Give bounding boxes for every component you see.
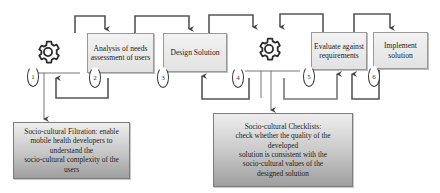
step-number-6: 6 [368,66,380,87]
note-text: Socio-cultural Checklists: check whether… [235,122,330,179]
step-label: Design Solution [170,48,219,57]
step-number-2: 2 [89,67,101,88]
step-label: Analysis of needs assessment of users [90,44,151,62]
note-socio-cultural-checklists: Socio-cultural Checklists: check whether… [213,113,353,187]
step-number-1: 1 [27,66,39,87]
step-number-3: 3 [157,67,169,88]
step-box-implement: Implement solution [373,32,428,69]
note-text: Socio-cultural Filtration: enable mobile… [24,127,119,174]
step-box-design: Design Solution [163,33,227,72]
note-socio-cultural-filtration: Socio-cultural Filtration: enable mobile… [13,122,130,179]
step-box-evaluate: Evaluate against requirements [311,32,367,70]
step-label: Implement solution [376,41,425,59]
step-label: Evaluate against requirements [314,42,364,60]
gear-icon [34,38,62,66]
step-number-5: 5 [303,66,315,87]
step-number-4: 4 [232,67,244,88]
gear-icon [255,35,283,63]
